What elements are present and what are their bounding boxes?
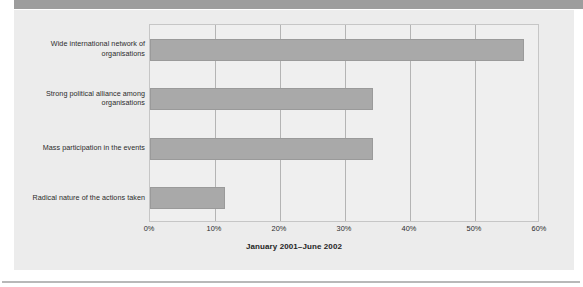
bar <box>150 88 373 110</box>
bar <box>150 138 373 160</box>
category-label-column: Wide international network oforganisatio… <box>14 24 145 222</box>
category-label-line: Radical nature of the actions taken <box>15 193 145 203</box>
category-label-line: Wide international network of <box>15 39 145 49</box>
category-label-line: organisations <box>15 98 145 108</box>
chart-figure: Wide international network oforganisatio… <box>0 0 583 287</box>
x-tick-label: 40% <box>402 224 417 233</box>
category-label: Strong political alliance amongorganisat… <box>15 89 145 108</box>
plot-area <box>149 24 539 222</box>
chart-panel: Wide international network oforganisatio… <box>14 10 574 270</box>
category-label-line: Strong political alliance among <box>15 89 145 99</box>
x-axis-tick-labels: 0%10%20%30%40%50%60% <box>149 224 539 238</box>
bar <box>150 187 225 209</box>
chart-caption: January 2001–June 2002 <box>14 242 574 251</box>
bar <box>150 39 524 61</box>
bottom-divider-rule <box>2 281 580 283</box>
x-tick-label: 50% <box>467 224 482 233</box>
category-label: Radical nature of the actions taken <box>15 193 145 203</box>
x-tick-label: 60% <box>532 224 547 233</box>
x-tick-label: 10% <box>207 224 222 233</box>
top-decorative-band <box>14 0 583 9</box>
x-tick-label: 30% <box>337 224 352 233</box>
category-label: Mass participation in the events <box>15 143 145 153</box>
category-label-line: organisations <box>15 49 145 59</box>
category-label: Wide international network oforganisatio… <box>15 39 145 58</box>
category-label-line: Mass participation in the events <box>15 143 145 153</box>
x-tick-label: 20% <box>272 224 287 233</box>
x-tick-label: 0% <box>144 224 155 233</box>
